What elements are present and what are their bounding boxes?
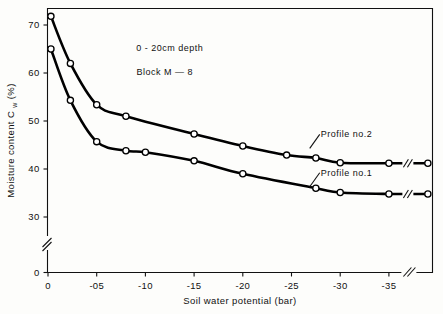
data-point [313, 185, 319, 191]
x-tick-label--25: -25 [284, 280, 299, 291]
y-tick-label-50: 50 [28, 115, 39, 126]
y-tick-label-30: 30 [28, 211, 39, 222]
data-point [48, 13, 54, 19]
series-2 [48, 46, 431, 198]
chart-canvas: 030405060700-05-10-15-20-25-30-35Profile… [0, 0, 443, 314]
data-point [191, 131, 197, 137]
data-point [48, 46, 54, 52]
data-point [313, 155, 319, 161]
series-label-1: Profile no.2 [321, 129, 373, 139]
block-note: Block M — 8 [137, 67, 194, 77]
depth-note: 0 - 20cm depth [136, 43, 203, 53]
data-point [240, 143, 246, 149]
data-point [191, 158, 197, 164]
x-axis-title-text: Soil water potential (bar) [183, 295, 296, 306]
data-point [386, 191, 392, 197]
x-tick-label--05: -05 [89, 280, 104, 291]
data-point [386, 160, 392, 166]
data-point [94, 102, 100, 108]
x-tick-label--35: -35 [382, 280, 397, 291]
data-point [67, 60, 73, 66]
series-label-2: Profile no.1 [321, 168, 373, 178]
y-axis-title-text: Moisture content C w (%) [5, 83, 18, 197]
x-tick-label-0: 0 [45, 280, 51, 291]
x-tick-label--30: -30 [333, 280, 348, 291]
data-point [67, 97, 73, 103]
series-leader-2 [310, 173, 320, 187]
x-tick-label--20: -20 [235, 280, 250, 291]
y-tick-label-0: 0 [34, 267, 40, 278]
data-point [240, 171, 246, 177]
x-tick-label--10: -10 [138, 280, 153, 291]
data-point [425, 191, 431, 197]
data-point [337, 189, 343, 195]
data-point [94, 139, 100, 145]
data-point [142, 149, 148, 155]
series-line-1 [51, 16, 428, 163]
data-point [337, 160, 343, 166]
data-point [284, 152, 290, 158]
series-1 [48, 13, 431, 167]
x-tick-label--15: -15 [187, 280, 202, 291]
figure-chart: 030405060700-05-10-15-20-25-30-35Profile… [0, 0, 443, 314]
data-point [425, 160, 431, 166]
series-leader-1 [310, 134, 320, 148]
y-tick-label-70: 70 [28, 19, 39, 30]
y-tick-label-60: 60 [28, 67, 39, 78]
data-point [123, 148, 129, 154]
y-tick-label-40: 40 [28, 163, 39, 174]
data-point [123, 113, 129, 119]
plot-frame [48, 9, 433, 273]
